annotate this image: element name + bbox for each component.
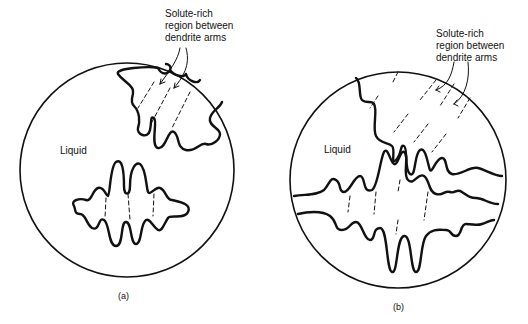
panel-b-caption: (b) xyxy=(393,302,404,312)
panel-a-annotation: Solute-rich region between dendrite arms xyxy=(165,8,233,44)
panel-b-graphic xyxy=(290,62,506,288)
panel-b-solute-lines xyxy=(348,72,470,234)
panel-b-leader-lines xyxy=(436,62,468,106)
panel-a-upper-solute-lines xyxy=(138,82,190,128)
panel-a-circle xyxy=(20,63,234,277)
panel-b-liquid-label: Liquid xyxy=(324,144,351,156)
panel-a-annotation-line-3: dendrite arms xyxy=(165,32,233,44)
panel-b-annotation-line-1: Solute-rich xyxy=(436,28,504,40)
panel-a-lower-dendrite xyxy=(73,161,189,246)
panel-a-leader-lines xyxy=(160,48,188,88)
panel-b-annotation-line-3: dendrite arms xyxy=(436,52,504,64)
panel-a-lower-solute-lines xyxy=(105,194,154,220)
panel-b-annotation-line-2: region between xyxy=(436,40,504,52)
panel-a-graphic xyxy=(20,48,234,277)
panel-a-annotation-line-1: Solute-rich xyxy=(165,8,233,20)
panel-a-caption: (a) xyxy=(118,291,129,301)
panel-a-liquid-label: Liquid xyxy=(60,145,87,157)
panel-b-upper-dendrite xyxy=(356,78,502,176)
panel-b-lower-boundary xyxy=(298,212,494,272)
panel-b-annotation: Solute-rich region between dendrite arms xyxy=(436,28,504,64)
panel-a-upper-dendrite xyxy=(118,64,222,150)
panel-a-annotation-line-2: region between xyxy=(165,20,233,32)
